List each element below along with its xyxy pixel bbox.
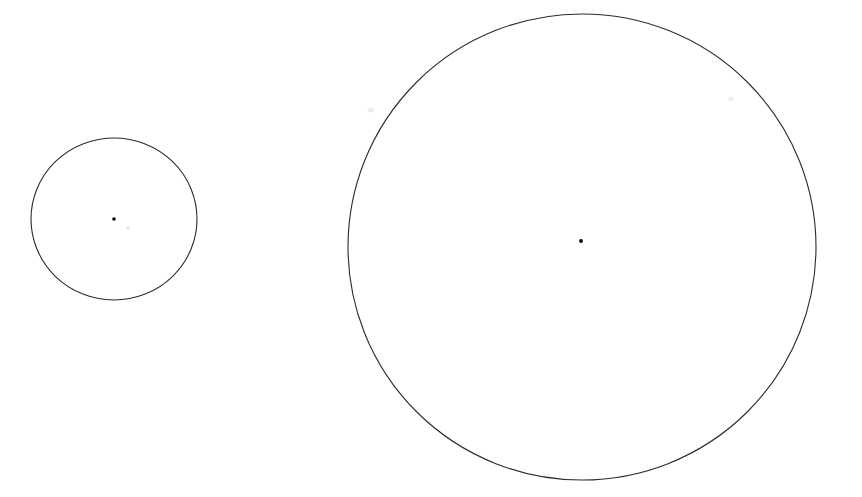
- small-circle-center-dot: [112, 217, 116, 221]
- large-circle-center-dot: [579, 239, 583, 243]
- canvas-background: [0, 0, 862, 497]
- faint-gray-smudge-left-icon: [368, 108, 374, 113]
- faint-gray-smudge-right-icon: [728, 97, 734, 101]
- diagram-canvas: [0, 0, 862, 497]
- circles-figure: [0, 0, 862, 497]
- faint-pink-speck-icon: [126, 226, 130, 229]
